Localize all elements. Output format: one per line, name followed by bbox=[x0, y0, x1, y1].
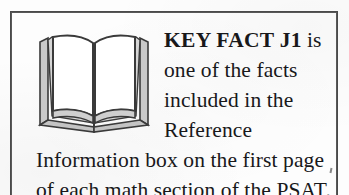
scanned-page: KEY FACT J1is one of the facts included … bbox=[0, 0, 349, 195]
key-fact-label: KEY FACT J1 bbox=[164, 28, 302, 52]
key-fact-callout-box: KEY FACT J1is one of the facts included … bbox=[10, 11, 338, 195]
book-wrap-spacer bbox=[36, 25, 164, 143]
key-fact-text: KEY FACT J1is one of the facts included … bbox=[36, 25, 341, 195]
